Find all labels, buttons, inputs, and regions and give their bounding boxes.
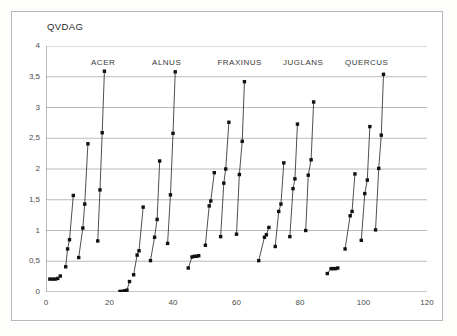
data-point	[304, 229, 307, 232]
x-tick-label: 80	[285, 298, 315, 307]
data-series	[304, 100, 315, 232]
data-series	[64, 194, 75, 269]
data-point	[326, 272, 329, 275]
data-series	[257, 226, 271, 263]
x-tick-label: 40	[158, 298, 188, 307]
data-point	[132, 273, 135, 276]
x-tick-label: 60	[222, 298, 252, 307]
data-point	[350, 210, 353, 213]
plot-area	[46, 46, 427, 292]
x-tick-label: 20	[95, 298, 125, 307]
data-series	[166, 70, 177, 245]
data-point	[208, 204, 211, 207]
data-point	[267, 226, 270, 229]
data-point	[101, 131, 104, 134]
x-tick-label: 0	[31, 298, 61, 307]
series-line	[134, 207, 144, 275]
y-tick-label: 0,5	[16, 256, 40, 265]
group-label-alnus: ALNUS	[152, 58, 181, 67]
data-point	[155, 218, 158, 221]
data-point	[235, 232, 238, 235]
data-point	[382, 73, 385, 76]
data-point	[171, 132, 174, 135]
data-series	[187, 254, 201, 270]
series-line	[361, 127, 370, 241]
data-series	[360, 125, 372, 242]
data-point	[197, 254, 200, 257]
data-point	[204, 244, 207, 247]
series-line	[168, 72, 176, 244]
y-tick-label: 2,5	[16, 133, 40, 142]
data-point	[274, 245, 277, 248]
data-point	[222, 181, 225, 184]
data-series	[149, 159, 162, 262]
data-point	[312, 100, 315, 103]
series-line	[98, 71, 105, 241]
data-point	[343, 247, 346, 250]
data-point	[291, 187, 294, 190]
data-point	[98, 188, 101, 191]
data-point	[125, 288, 128, 291]
series-line	[221, 122, 229, 236]
data-point	[227, 121, 230, 124]
data-point	[377, 167, 380, 170]
y-tick-label: 1,5	[16, 195, 40, 204]
data-series	[374, 73, 385, 232]
data-point	[103, 70, 106, 73]
chart-title: QVDAG	[47, 21, 83, 32]
x-tick-label: 120	[412, 298, 442, 307]
data-point	[307, 173, 310, 176]
data-point	[293, 177, 296, 180]
data-point	[96, 239, 99, 242]
data-point	[68, 238, 71, 241]
data-series-layer	[48, 70, 385, 292]
data-series	[204, 171, 216, 247]
series-line	[79, 144, 88, 258]
data-point	[353, 172, 356, 175]
data-point	[128, 280, 131, 283]
data-series	[326, 266, 340, 275]
data-point	[187, 266, 190, 269]
data-series	[48, 274, 62, 280]
group-label-juglans: JUGLANS	[283, 58, 323, 67]
data-point	[86, 142, 89, 145]
y-tick-label: 3,5	[16, 72, 40, 81]
data-point	[360, 239, 363, 242]
data-series	[343, 172, 356, 250]
data-point	[59, 274, 62, 277]
series-line	[306, 102, 314, 231]
y-tick-label: 0	[16, 287, 40, 296]
data-point	[238, 173, 241, 176]
data-point	[83, 202, 86, 205]
data-series	[274, 161, 286, 248]
data-series	[118, 280, 131, 292]
data-point	[363, 192, 366, 195]
plot-svg	[46, 46, 427, 292]
series-line	[376, 74, 384, 230]
data-point	[265, 233, 268, 236]
data-point	[288, 235, 291, 238]
data-point	[169, 193, 172, 196]
data-point	[279, 202, 282, 205]
series-line	[150, 161, 159, 261]
series-line	[205, 173, 214, 246]
data-point	[296, 122, 299, 125]
data-series	[235, 80, 246, 236]
data-series	[96, 70, 106, 243]
data-point	[368, 125, 371, 128]
data-point	[209, 199, 212, 202]
data-point	[224, 167, 227, 170]
data-point	[336, 266, 339, 269]
group-label-fraxinus: FRAXINUS	[217, 58, 261, 67]
group-label-acer: ACER	[91, 58, 115, 67]
data-point	[137, 249, 140, 252]
y-tick-label: 4	[16, 41, 40, 50]
data-point	[213, 171, 216, 174]
data-point	[66, 247, 69, 250]
data-point	[158, 159, 161, 162]
series-line	[259, 227, 269, 260]
y-tick-label: 3	[16, 103, 40, 112]
group-label-quercus: QUERCUS	[345, 58, 389, 67]
data-series	[77, 142, 90, 259]
data-point	[153, 236, 156, 239]
